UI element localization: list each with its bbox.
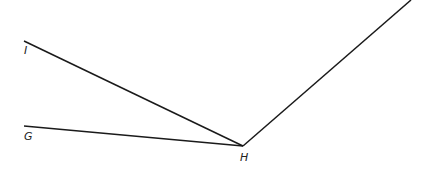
ray-hi	[24, 41, 243, 146]
ray-upper	[243, 0, 411, 146]
label-h: H	[240, 152, 248, 163]
ray-hg	[24, 126, 243, 146]
label-i: I	[24, 45, 27, 56]
label-g: G	[24, 131, 33, 142]
angle-diagram	[0, 0, 435, 170]
